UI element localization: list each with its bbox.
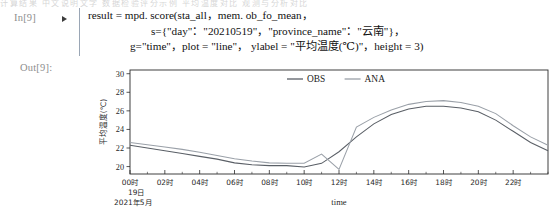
x-axis-tick-label: 06时 <box>226 178 243 187</box>
x-axis-tick-label: 10时 <box>296 178 313 187</box>
x-axis-date-caption: 19日 <box>128 188 144 197</box>
x-axis-tick-label: 22时 <box>505 178 522 187</box>
legend-label-ana: ANA <box>365 74 386 84</box>
plot-frame <box>130 70 548 174</box>
x-axis-tick-label: 04时 <box>191 178 208 187</box>
notebook-output-cell: Out[9]: 202224262830平均温度(℃)00时02时04时06时0… <box>0 58 556 219</box>
y-axis-tick-label: 20 <box>116 163 124 172</box>
y-axis-tick-label: 28 <box>116 88 124 97</box>
code-line: g="time"，plot = "line"， ylabel = "平均温度(℃… <box>88 39 549 55</box>
input-prompt-label: In[9] <box>14 12 36 23</box>
x-axis-tick-label: 18时 <box>435 178 452 187</box>
code-editor[interactable]: result = mpd. score(sta_all，mem. ob_fo_m… <box>79 8 549 56</box>
temperature-line-chart: 202224262830平均温度(℃)00时02时04时06时08时10时12时… <box>96 58 552 216</box>
output-prompt-label: Out[9]: <box>20 62 52 73</box>
x-axis-tick-label: 08时 <box>261 178 278 187</box>
run-triangle-icon[interactable] <box>62 16 67 22</box>
y-axis-tick-label: 26 <box>116 107 124 116</box>
x-axis-tick-label: 20时 <box>470 178 487 187</box>
legend-label-obs: OBS <box>307 74 325 84</box>
y-axis-tick-label: 30 <box>116 70 124 79</box>
code-line: result = mpd. score(sta_all，mem. ob_fo_m… <box>88 8 549 24</box>
x-axis-title: time <box>331 197 346 207</box>
x-axis-tick-label: 16时 <box>400 178 417 187</box>
output-figure: 202224262830平均温度(℃)00时02时04时06时08时10时12时… <box>96 58 552 216</box>
code-line: s={"day"："20210519"，"province_name"："云南"… <box>88 24 549 40</box>
x-axis-tick-label: 14时 <box>366 178 383 187</box>
y-axis-tick-label: 22 <box>116 144 124 153</box>
page-top-artifact: 计算结果 中文说明文字 数据检验评分示例 平均温度对比 观测与分析对比 <box>0 0 556 7</box>
x-axis-tick-label: 00时 <box>122 178 139 187</box>
x-axis-tick-label: 12时 <box>331 178 348 187</box>
notebook-input-cell: In[9] result = mpd. score(sta_all，mem. o… <box>0 8 556 56</box>
x-axis-month-caption: 2021年5月 <box>114 198 152 207</box>
y-axis-title: 平均温度(℃) <box>98 99 108 145</box>
x-axis-tick-label: 02时 <box>157 178 174 187</box>
y-axis-tick-label: 24 <box>116 125 124 134</box>
